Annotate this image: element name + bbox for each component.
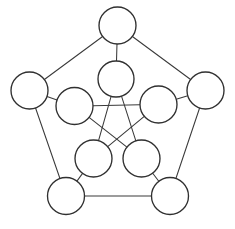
node-circle-outer-bottom-right[interactable] bbox=[152, 178, 189, 215]
graph-edge-outer-bottom-right-to-inner-bottom-right bbox=[153, 173, 159, 181]
graph-edge-outer-bottom-left-to-inner-bottom-left bbox=[77, 173, 83, 181]
node-circle-inner-bottom-left[interactable] bbox=[75, 140, 112, 177]
graph-node-outer-top[interactable] bbox=[99, 7, 136, 44]
node-layer bbox=[11, 7, 224, 215]
node-circle-inner-right[interactable] bbox=[140, 86, 177, 123]
petersen-graph bbox=[0, 0, 235, 229]
graph-edge-inner-top-to-inner-bottom-left bbox=[99, 96, 112, 140]
graph-edge-outer-top-to-outer-right bbox=[132, 36, 190, 79]
graph-node-inner-top[interactable] bbox=[98, 61, 134, 97]
graph-edge-outer-left-to-outer-bottom-left bbox=[36, 108, 60, 179]
graph-edge-outer-left-to-inner-left bbox=[47, 97, 57, 100]
graph-node-inner-bottom-left[interactable] bbox=[75, 140, 112, 177]
graph-edge-outer-top-to-outer-left bbox=[44, 36, 102, 79]
graph-diagram-canvas bbox=[0, 0, 235, 229]
node-circle-outer-left[interactable] bbox=[11, 72, 48, 109]
graph-node-inner-left[interactable] bbox=[56, 88, 93, 125]
node-circle-outer-right[interactable] bbox=[187, 72, 224, 109]
node-circle-outer-top[interactable] bbox=[99, 7, 136, 44]
node-circle-outer-bottom-left[interactable] bbox=[48, 178, 85, 215]
graph-edge-outer-right-to-outer-bottom-right bbox=[176, 108, 200, 178]
graph-node-outer-bottom-left[interactable] bbox=[48, 178, 85, 215]
graph-node-outer-left[interactable] bbox=[11, 72, 48, 109]
graph-node-inner-bottom-right[interactable] bbox=[123, 140, 160, 177]
graph-node-outer-right[interactable] bbox=[187, 72, 224, 109]
node-circle-inner-top[interactable] bbox=[98, 61, 134, 97]
graph-edge-inner-top-to-inner-bottom-right bbox=[122, 96, 136, 141]
graph-node-inner-right[interactable] bbox=[140, 86, 177, 123]
graph-node-outer-bottom-right[interactable] bbox=[152, 178, 189, 215]
graph-edge-inner-left-to-inner-right bbox=[93, 105, 140, 106]
node-circle-inner-left[interactable] bbox=[56, 88, 93, 125]
node-circle-inner-bottom-right[interactable] bbox=[123, 140, 160, 177]
graph-edge-outer-right-to-inner-right bbox=[176, 96, 188, 99]
